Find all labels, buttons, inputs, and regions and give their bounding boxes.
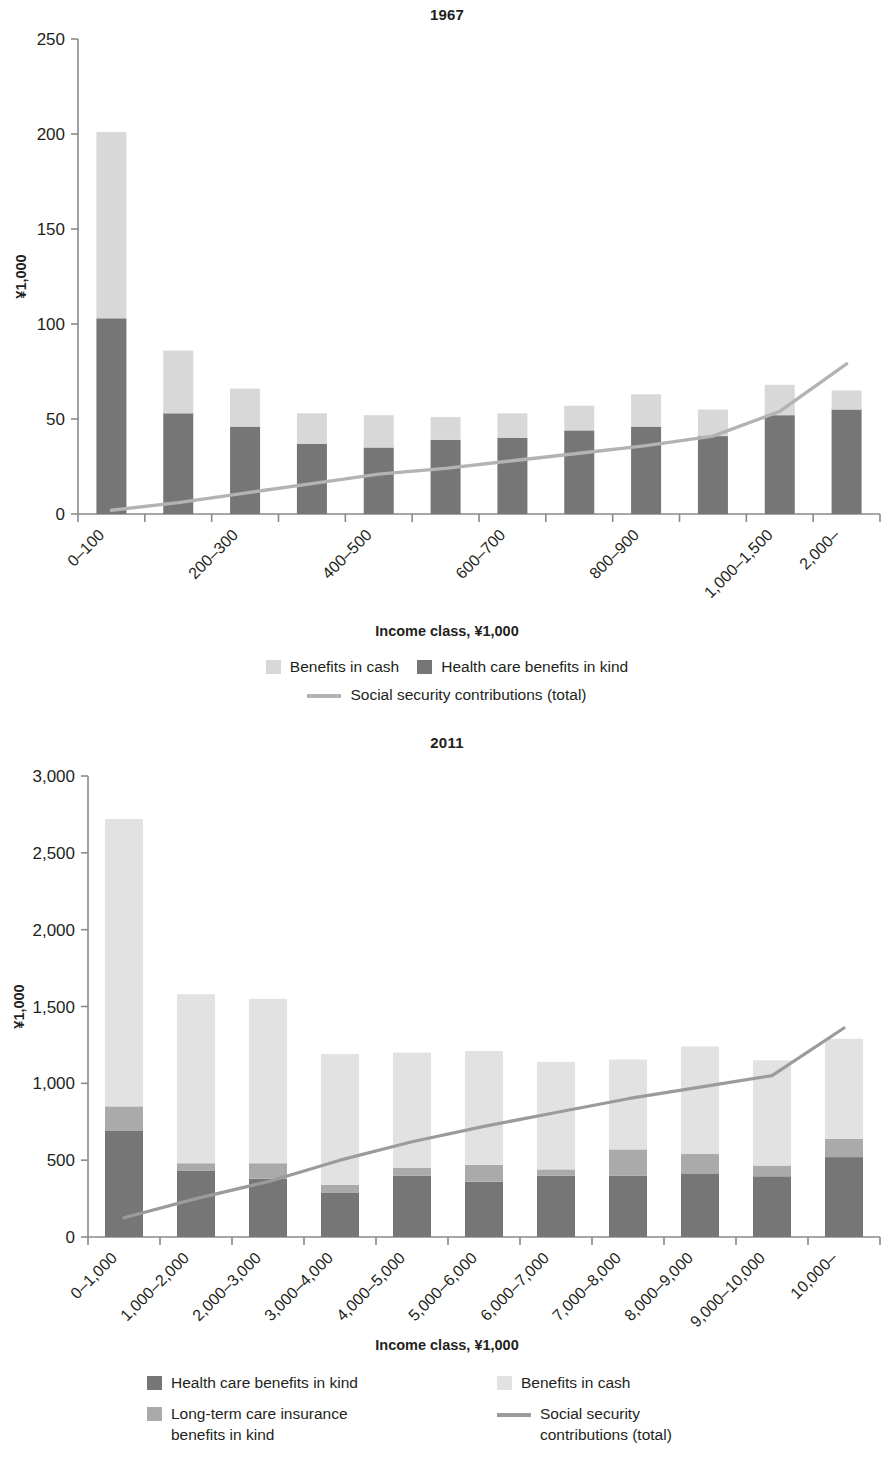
x-axis-tick-label: 800–900 <box>586 526 642 582</box>
bar-segment <box>465 1051 503 1165</box>
legend-line-icon <box>497 1413 531 1417</box>
x-axis-tick-label: 0–100 <box>64 526 108 570</box>
bar-segment <box>609 1060 647 1150</box>
legend-item-social-security-contributions[interactable]: Social security contributions (total) <box>307 685 586 706</box>
x-axis-tick-label: 200–300 <box>185 526 241 582</box>
bar-segment <box>631 394 661 426</box>
legend-swatch-icon <box>147 1407 162 1421</box>
bar-segment <box>297 413 327 443</box>
bar-segment <box>609 1176 647 1237</box>
bar-segment <box>681 1174 719 1237</box>
bar-segment <box>177 994 215 1163</box>
chart-title-1967: 1967 <box>0 6 894 23</box>
x-axis-tick-label: 2,000–3,000 <box>189 1249 264 1324</box>
bar-segment <box>431 440 461 514</box>
plot-area-2011: 05001,0001,5002,0002,5003,000¥1,0000–1,0… <box>0 751 894 1337</box>
legend-item-long-term-care-insurance-benefits-in-kind[interactable]: Long-term care insurance benefits in kin… <box>147 1404 477 1446</box>
bar-segment <box>431 417 461 440</box>
bar-segment <box>753 1176 791 1237</box>
bar-segment <box>249 1179 287 1237</box>
legend-label: Benefits in cash <box>521 1373 630 1394</box>
y-axis-tick-label: 50 <box>46 410 65 429</box>
bar-segment <box>96 132 126 318</box>
bar-segment <box>364 415 394 447</box>
bar-segment <box>393 1053 431 1168</box>
bar-segment <box>163 351 193 414</box>
axis-title-y: ¥1,000 <box>13 254 29 298</box>
legend-1967: Benefits in cash Health care benefits in… <box>0 657 894 706</box>
bar-segment <box>825 1157 863 1237</box>
x-axis-tick-label: 10,000– <box>787 1249 840 1302</box>
bar-segment <box>230 427 260 514</box>
chart-panel-2011: 2011 05001,0001,5002,0002,5003,000¥1,000… <box>0 726 894 1460</box>
chart-title-2011: 2011 <box>0 734 894 751</box>
axis-title-x-2011: Income class, ¥1,000 <box>0 1337 894 1353</box>
axis-title-x-1967: Income class, ¥1,000 <box>0 623 894 639</box>
bar-segment <box>681 1154 719 1174</box>
legend-line-icon <box>307 694 341 698</box>
legend-item-health-care-benefits-in-kind[interactable]: Health care benefits in kind <box>417 657 628 678</box>
bar-segment <box>681 1046 719 1154</box>
bar-segment <box>297 444 327 514</box>
legend-swatch-icon <box>417 660 432 674</box>
legend-label: Social security contributions (total) <box>540 1404 672 1446</box>
bar-segment <box>825 1139 863 1157</box>
x-axis-tick-label: 9,000–10,000 <box>687 1249 768 1330</box>
plot-area-1967: 050100150200250¥1,0000–100200–300400–500… <box>0 23 894 623</box>
bar-segment <box>753 1166 791 1177</box>
y-axis-tick-label: 1,000 <box>32 1074 75 1093</box>
y-axis-tick-label: 150 <box>37 220 65 239</box>
bar-segment <box>564 430 594 514</box>
bar-segment <box>177 1171 215 1237</box>
bar-segment <box>832 410 862 515</box>
bar-segment <box>163 413 193 514</box>
legend-2011: Health care benefits in kind Benefits in… <box>0 1373 894 1446</box>
bar-segment <box>230 389 260 427</box>
y-axis-tick-label: 250 <box>37 30 65 49</box>
x-axis-tick-label: 1,000–1,500 <box>701 526 776 601</box>
legend-label: Social security contributions (total) <box>350 685 586 706</box>
legend-row: Social security contributions (total) <box>298 685 595 706</box>
legend-label: Health care benefits in kind <box>441 657 628 678</box>
x-axis-tick-label: 3,000–4,000 <box>261 1249 336 1324</box>
x-axis-tick-label: 0–1,000 <box>67 1249 120 1302</box>
y-axis-tick-label: 200 <box>37 125 65 144</box>
bar-segment <box>497 438 527 514</box>
bar-segment <box>765 415 795 514</box>
axis-title-y: ¥1,000 <box>11 984 27 1028</box>
x-axis-tick-label: 4,000–5,000 <box>333 1249 408 1324</box>
bar-segment <box>564 406 594 431</box>
legend-grid: Health care benefits in kind Benefits in… <box>147 1373 797 1446</box>
y-axis-tick-label: 100 <box>37 315 65 334</box>
x-axis-tick-label: 1,000–2,000 <box>117 1249 192 1324</box>
legend-swatch-icon <box>147 1376 162 1390</box>
x-axis-tick-label: 400–500 <box>319 526 375 582</box>
bar-segment <box>698 436 728 514</box>
y-axis-tick-label: 1,500 <box>32 998 75 1017</box>
bar-segment <box>105 1131 143 1237</box>
bar-segment <box>465 1182 503 1237</box>
legend-row: Benefits in cash Health care benefits in… <box>257 657 637 678</box>
legend-item-social-security-contributions[interactable]: Social security contributions (total) <box>497 1404 797 1446</box>
legend-item-benefits-in-cash[interactable]: Benefits in cash <box>266 657 399 678</box>
bar-segment <box>537 1176 575 1237</box>
bar-segment <box>321 1192 359 1237</box>
chart-panel-1967: 1967 050100150200250¥1,0000–100200–30040… <box>0 0 894 726</box>
bar-segment <box>832 391 862 410</box>
y-axis-tick-label: 3,000 <box>32 767 75 786</box>
legend-item-health-care-benefits-in-kind[interactable]: Health care benefits in kind <box>147 1373 477 1394</box>
x-axis-tick-label: 7,000–8,000 <box>549 1249 624 1324</box>
bar-segment <box>825 1039 863 1139</box>
bar-segment <box>393 1176 431 1237</box>
bar-segment <box>105 1106 143 1131</box>
x-axis-tick-label: 600–700 <box>452 526 508 582</box>
legend-label: Long-term care insurance benefits in kin… <box>171 1404 348 1446</box>
legend-item-benefits-in-cash[interactable]: Benefits in cash <box>497 1373 797 1394</box>
bar-segment <box>497 413 527 438</box>
legend-swatch-icon <box>266 660 281 674</box>
bar-segment <box>177 1163 215 1171</box>
bar-segment <box>465 1165 503 1182</box>
bar-segment <box>393 1168 431 1176</box>
plot-svg-1967: 050100150200250¥1,0000–100200–300400–500… <box>0 23 894 623</box>
y-axis-tick-label: 0 <box>56 505 65 524</box>
